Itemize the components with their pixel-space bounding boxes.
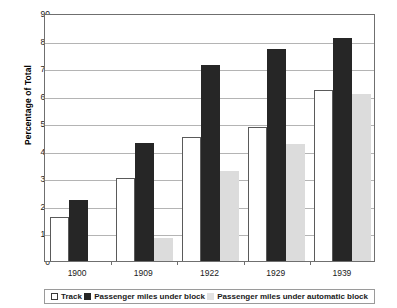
bar-chart: Percentage of Total 9080706050403020100 … [0, 0, 397, 308]
legend-label-automatic-block: Passenger miles under automatic block [217, 292, 368, 301]
plot-area [44, 14, 375, 262]
legend-item-automatic-block: Passenger miles under automatic block [207, 292, 368, 301]
x-tick-label-1909: 1909 [108, 268, 178, 278]
category-separator-1929 [244, 261, 245, 265]
x-tick-label-1929: 1929 [241, 268, 311, 278]
bar-automatic-block-1929 [286, 144, 305, 261]
legend-item-track: Track [51, 292, 82, 301]
bar-track-1900 [50, 217, 69, 261]
bar-track-1939 [314, 90, 333, 261]
gridline-80 [45, 43, 374, 44]
bar-automatic-block-1909 [154, 238, 173, 261]
track-swatch [51, 293, 58, 300]
bar-block-1922 [201, 65, 220, 261]
bar-track-1929 [248, 127, 267, 261]
x-tick-label-1900: 1900 [42, 268, 112, 278]
bar-block-1929 [267, 49, 286, 261]
bar-block-1900 [69, 200, 88, 261]
category-separator-1909 [111, 261, 112, 265]
x-tick-label-1939: 1939 [307, 268, 377, 278]
legend-item-block: Passenger miles under block [84, 292, 205, 301]
x-tick-label-1922: 1922 [175, 268, 245, 278]
legend-label-block: Passenger miles under block [94, 292, 205, 301]
bar-block-1939 [333, 38, 352, 261]
category-separator-1939 [310, 261, 311, 265]
bar-block-1909 [135, 143, 154, 261]
bar-automatic-block-1939 [352, 94, 371, 261]
legend-label-track: Track [61, 292, 82, 301]
chart-legend: TrackPassenger miles under blockPassenge… [44, 289, 375, 304]
block-swatch [84, 293, 91, 300]
automatic-block-swatch [207, 293, 214, 300]
bar-track-1922 [182, 137, 201, 261]
bar-track-1909 [116, 178, 135, 261]
bar-automatic-block-1922 [220, 171, 239, 261]
category-separator-1922 [177, 261, 178, 265]
